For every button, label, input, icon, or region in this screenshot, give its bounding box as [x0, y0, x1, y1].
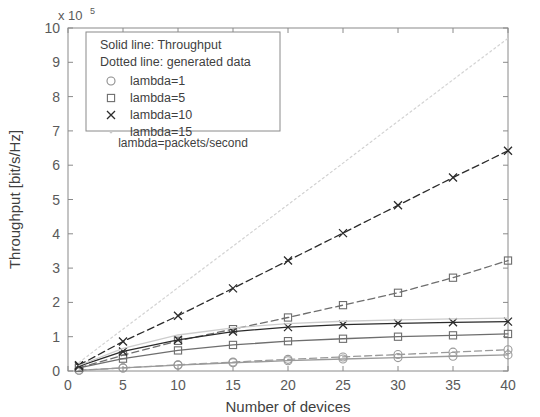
x-axis-tick-label: 40: [500, 377, 516, 393]
y-axis-tick-label: 2: [52, 294, 60, 310]
marker-cross: [449, 174, 457, 182]
legend-entry-label: lambda=10: [130, 108, 192, 122]
marker-cross: [174, 312, 182, 320]
x-axis-title: Number of devices: [225, 398, 350, 415]
legend: Solid line: ThroughputDotted line: gener…: [86, 32, 280, 139]
legend-entry-label: lambda=1: [130, 74, 185, 88]
legend-header-line: Dotted line: generated data: [100, 55, 251, 69]
marker-cross: [229, 284, 237, 292]
series-6: [79, 318, 508, 365]
y-axis-tick-label: 7: [52, 123, 60, 139]
series-path: [79, 318, 508, 365]
marker-dot: [110, 131, 113, 134]
series-path: [79, 151, 508, 365]
marker-cross: [394, 201, 402, 209]
y-axis-exponent-power: 5: [90, 6, 95, 16]
x-axis-tick-label: 10: [170, 377, 186, 393]
y-axis-tick-label: 0: [52, 363, 60, 379]
y-axis-tick-label: 4: [52, 226, 60, 242]
y-axis-tick-label: 6: [52, 157, 60, 173]
series-path: [79, 355, 508, 370]
series-2: [75, 330, 511, 371]
chart-figure: 0123456789100510152025303540x 105Number …: [0, 0, 540, 417]
y-axis-tick-label: 3: [52, 260, 60, 276]
series-3: [75, 257, 511, 372]
legend-footnote: lambda=packets/second: [118, 136, 248, 150]
x-axis-tick-label: 30: [390, 377, 406, 393]
series-path: [79, 334, 508, 368]
x-axis-tick-label: 0: [64, 377, 72, 393]
y-axis-title: Throughput [bit/s/Hz]: [6, 130, 23, 269]
throughput-line-chart: 0123456789100510152025303540x 105Number …: [0, 0, 540, 417]
marker-cross: [284, 257, 292, 265]
marker-cross: [119, 338, 127, 346]
x-axis-tick-label: 25: [335, 377, 351, 393]
y-axis-tick-label: 9: [52, 54, 60, 70]
x-axis-tick-label: 15: [225, 377, 241, 393]
y-axis-exponent: x 10: [58, 8, 83, 23]
marker-cross: [339, 229, 347, 237]
x-axis-tick-label: 35: [445, 377, 461, 393]
x-axis-tick-label: 20: [280, 377, 296, 393]
y-axis-tick-label: 1: [52, 329, 60, 345]
x-axis-tick-label: 5: [119, 377, 127, 393]
legend-entry-label: lambda=5: [130, 91, 185, 105]
y-axis-tick-label: 5: [52, 192, 60, 208]
y-axis-tick-label: 8: [52, 89, 60, 105]
legend-header-line: Solid line: Throughput: [100, 38, 222, 52]
